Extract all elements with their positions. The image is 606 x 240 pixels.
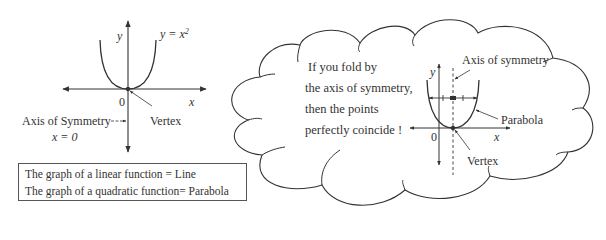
cloud-text-line-1: If you fold by <box>308 60 378 74</box>
origin-label: 0 <box>119 95 125 109</box>
cloud-text-line-2: the axis of symmetry, <box>305 81 413 95</box>
info-line-linear: The graph of a linear function = Line <box>25 166 240 183</box>
cloud-axis-of-symmetry-label: Axis of symmetry <box>462 53 549 67</box>
cloud-vertex-label: Vertex <box>467 154 498 168</box>
cloud-text-line-3: then the points <box>305 102 379 116</box>
vertex-pointer <box>130 91 152 106</box>
cloud-origin-label: 0 <box>431 130 437 144</box>
axis-of-symmetry-equation: x = 0 <box>51 130 77 144</box>
vertex-label: Vertex <box>150 114 181 128</box>
info-box: The graph of a linear function = Line Th… <box>18 163 247 201</box>
left-graph: y y = x2 0 x Vertex Axis of Symmetry x =… <box>22 21 206 152</box>
vertex-dot <box>126 87 130 91</box>
cloud-text-line-4: perfectly coincide ! <box>305 123 402 137</box>
cloud-x-axis-label: x <box>493 130 500 144</box>
cloud-vertex-dot <box>451 126 455 130</box>
cloud-y-axis-label: y <box>429 65 436 79</box>
function-label: y = x2 <box>159 27 189 42</box>
x-axis-label: x <box>188 95 195 109</box>
info-line-quadratic: The graph of a quadratic function= Parab… <box>25 183 240 200</box>
axis-of-symmetry-label: Axis of Symmetry <box>22 114 111 128</box>
y-axis-label: y <box>116 29 123 43</box>
cloud-parabola-label: Parabola <box>501 113 544 127</box>
